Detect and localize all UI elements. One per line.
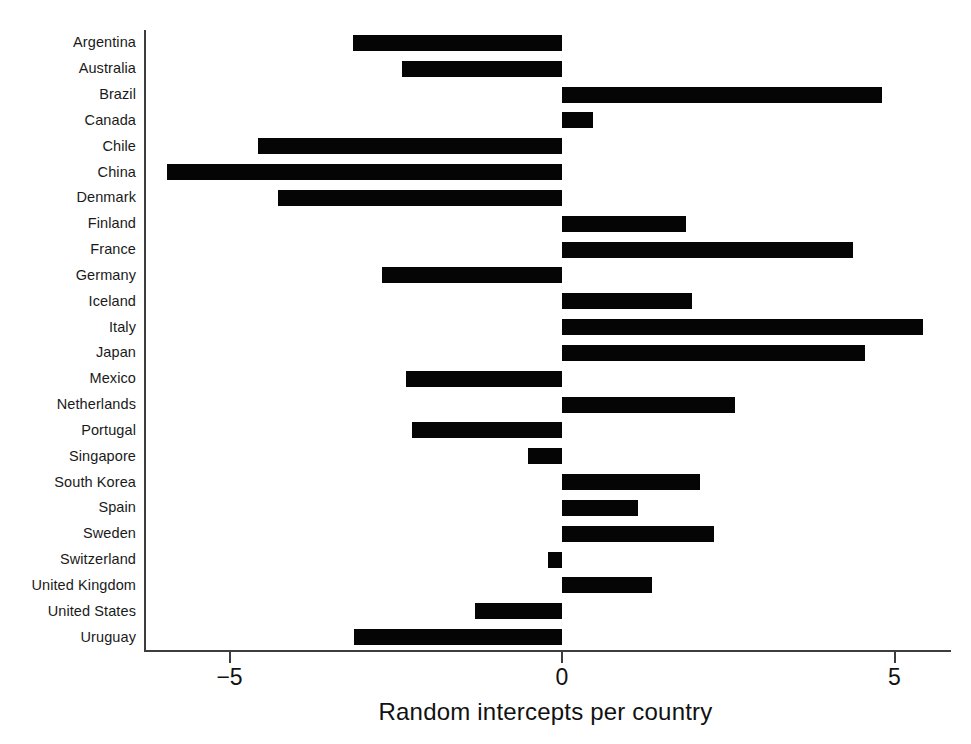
bar-canada (562, 112, 593, 128)
bar-france (562, 242, 853, 258)
y-axis-tick-label: Singapore (4, 449, 136, 464)
y-axis-tick-label: Australia (4, 61, 136, 76)
x-tick-mark (561, 652, 563, 663)
x-axis-title-text: Random intercepts per country (379, 698, 713, 726)
y-axis-tick-label: Japan (4, 345, 136, 360)
bar-australia (402, 61, 562, 77)
y-axis-tick-label: Uruguay (4, 630, 136, 645)
x-tick-label: 0 (556, 665, 569, 690)
bar-portugal (412, 422, 562, 438)
bar-denmark (278, 190, 562, 206)
y-axis-tick-label: China (4, 165, 136, 180)
bar-united-states (475, 603, 562, 619)
y-axis-tick-label: France (4, 242, 136, 257)
y-axis-tick-label: Brazil (4, 87, 136, 102)
y-axis-tick-label: South Korea (4, 475, 136, 490)
x-tick-mark (229, 652, 231, 663)
y-axis-tick-label: Finland (4, 216, 136, 231)
bar-iceland (562, 293, 692, 309)
y-axis-tick-label: Chile (4, 139, 136, 154)
y-axis-tick-label: Canada (4, 113, 136, 128)
bar-argentina (353, 35, 562, 51)
y-axis-tick-label: Spain (4, 500, 136, 515)
chart-figure: ArgentinaAustraliaBrazilCanadaChileChina… (0, 0, 971, 744)
bar-singapore (528, 448, 562, 464)
x-tick-label: 5 (888, 665, 901, 690)
y-axis-tick-label: Sweden (4, 526, 136, 541)
bar-mexico (406, 371, 562, 387)
x-tick-label: −5 (216, 665, 242, 690)
bar-spain (562, 500, 638, 516)
x-tick-mark (894, 652, 896, 663)
bar-germany (382, 267, 562, 283)
bar-uruguay (354, 629, 562, 645)
y-axis-tick-label: United States (4, 604, 136, 619)
bar-south-korea (562, 474, 700, 490)
y-axis-tick-label: Switzerland (4, 552, 136, 567)
bar-finland (562, 216, 686, 232)
y-axis-tick-label: Portugal (4, 423, 136, 438)
bar-united-kingdom (562, 577, 652, 593)
bar-italy (562, 319, 923, 335)
y-axis-tick-label: Italy (4, 320, 136, 335)
x-axis-spine (144, 650, 951, 652)
bar-china (167, 164, 562, 180)
x-axis-title: Random intercepts per country (0, 698, 971, 726)
bar-switzerland (548, 552, 562, 568)
y-axis-tick-label: Mexico (4, 371, 136, 386)
bar-sweden (562, 526, 714, 542)
bar-brazil (562, 87, 882, 103)
y-axis-tick-label: Netherlands (4, 397, 136, 412)
y-axis-tick-label: Germany (4, 268, 136, 283)
y-axis-category-labels: ArgentinaAustraliaBrazilCanadaChileChina… (0, 30, 136, 650)
bar-japan (562, 345, 865, 361)
plot-area (144, 30, 950, 650)
y-axis-tick-label: United Kingdom (4, 578, 136, 593)
y-axis-tick-label: Denmark (4, 190, 136, 205)
y-axis-tick-label: Argentina (4, 35, 136, 50)
y-axis-tick-label: Iceland (4, 294, 136, 309)
bar-netherlands (562, 397, 735, 413)
bar-chile (258, 138, 562, 154)
